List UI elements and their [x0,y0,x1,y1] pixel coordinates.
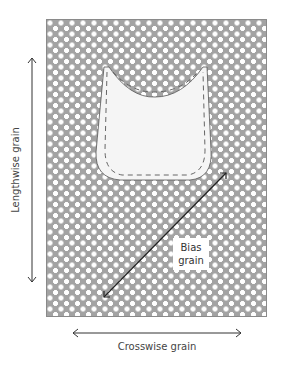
bias-label-line1: Bias [181,241,202,254]
bias-grain-label: Bias grain [173,238,209,270]
crosswise-grain-label: Crosswise grain [118,341,197,352]
crosswise-arrow [73,329,241,337]
diagram-overlay [0,0,284,365]
bias-label-line2: grain [178,254,204,267]
lengthwise-arrow [28,58,36,282]
bias-arrow [104,173,226,297]
pattern-piece [96,67,211,180]
lengthwise-grain-label: Lengthwise grain [10,127,21,213]
